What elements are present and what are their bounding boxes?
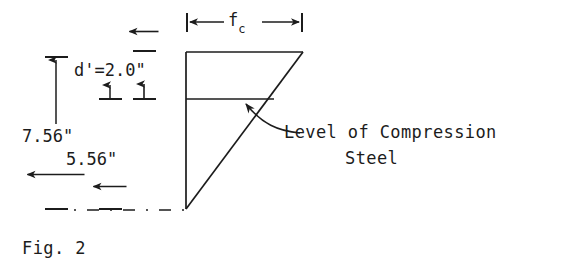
label-effective-depth: 5.56" <box>66 151 117 168</box>
annotation-line-1: Level of Compression <box>284 124 497 141</box>
label-cover-depth: d'=2.0" <box>74 62 146 79</box>
dimension-effective-depth <box>94 85 127 209</box>
label-total-depth: 7.56" <box>22 128 73 145</box>
annotation-line-2: Steel <box>345 150 398 167</box>
figure-caption: Fig. 2 <box>22 240 86 257</box>
stress-symbol: f <box>228 10 238 30</box>
label-stress-fc: fc <box>228 12 245 32</box>
stress-subscript: c <box>238 22 245 36</box>
figure-2-container: fc d'=2.0" 7.56" 5.56" Level of Compress… <box>0 0 572 277</box>
